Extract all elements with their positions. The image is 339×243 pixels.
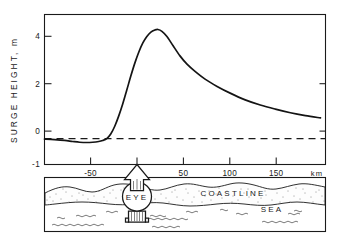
sea-label: SEA — [261, 205, 284, 214]
right-edge-ticks — [320, 84, 326, 131]
eye-track-foot-right — [146, 218, 149, 222]
surge-height-curve — [45, 29, 321, 142]
x-tick-label-150: 150 — [269, 169, 284, 178]
y-axis-title: SURGE HEIGHT, m — [9, 37, 19, 143]
x-tick-label-minus50: -50 — [84, 169, 97, 178]
y-axis-ticks — [45, 36, 52, 164]
y-tick-label-0: 0 — [35, 127, 40, 136]
eye-track-foot-left — [126, 218, 129, 222]
x-axis-ticks — [91, 158, 277, 165]
figure-canvas: 4 2 0 -1 SURGE HEIGHT, m -50 50 100 — [0, 0, 339, 243]
x-tick-label-50: 50 — [179, 169, 189, 178]
x-tick-label-100: 100 — [223, 169, 238, 178]
y-tick-label-2: 2 — [35, 80, 40, 89]
eye-label: EYE — [126, 193, 149, 202]
hurricane-eye-symbol: EYE — [123, 165, 152, 223]
coastline-label: COASTLINE — [200, 189, 265, 198]
surge-chart-panel: 4 2 0 -1 SURGE HEIGHT, m -50 50 100 — [9, 15, 326, 178]
y-tick-label-4: 4 — [35, 32, 40, 41]
y-tick-label-neg1: -1 — [32, 160, 40, 169]
land-mass — [45, 183, 325, 206]
storm-surge-figure: 4 2 0 -1 SURGE HEIGHT, m -50 50 100 — [0, 0, 339, 243]
x-axis-unit-label: km — [311, 169, 324, 178]
